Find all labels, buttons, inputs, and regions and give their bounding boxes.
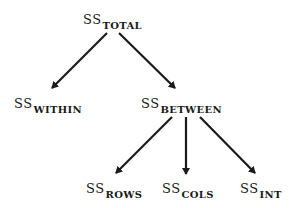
node-ss-cols: SSCOLS [162,180,214,196]
node-subscript: INT [260,189,282,200]
node-ss-total: SSTOTAL [83,11,142,27]
node-subscript: TOTAL [103,20,142,31]
node-prefix: SS [14,96,33,111]
node-prefix: SS [83,12,102,27]
node-prefix: SS [162,181,181,196]
edge-between-int [200,117,255,173]
node-subscript: ROWS [106,189,143,200]
edge-total-within [52,33,107,88]
node-subscript: WITHIN [34,104,82,115]
node-ss-within: SSWITHIN [14,95,82,111]
node-subscript: BETWEEN [161,104,222,115]
node-ss-rows: SSROWS [86,180,142,196]
node-prefix: SS [141,96,160,111]
node-ss-between: SSBETWEEN [141,95,222,111]
node-prefix: SS [86,181,105,196]
node-ss-int: SSINT [240,180,282,196]
node-prefix: SS [240,181,259,196]
edge-total-between [119,33,175,88]
node-subscript: COLS [182,189,214,200]
edge-between-rows [116,117,172,173]
